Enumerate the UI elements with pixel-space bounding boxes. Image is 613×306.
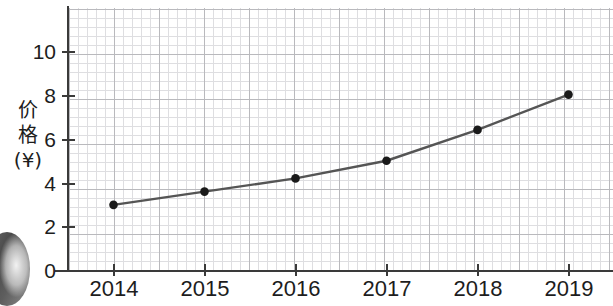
y-axis-label-4: 4 (28, 173, 56, 194)
x-axis-label-2015: 2015 (181, 277, 230, 301)
y-axis-label-0: 0 (28, 260, 56, 281)
scan-shadow-artifact (0, 232, 30, 306)
y-axis-tick-0 (62, 270, 75, 272)
x-axis-line (55, 270, 613, 272)
y-axis-tick-10 (62, 51, 75, 53)
y-axis-label-10: 10 (28, 41, 56, 62)
x-axis-tick-2016 (295, 264, 297, 276)
x-axis-label-2019: 2019 (545, 277, 594, 301)
chart-screenshot: 10 8 6 4 2 0 2014 2015 2016 2017 2018 20… (0, 0, 613, 306)
y-axis-tick-8 (62, 95, 75, 97)
y-axis-title-line-1: 价 (8, 98, 48, 123)
x-axis-tick-2019 (568, 264, 570, 276)
y-axis-label-2: 2 (28, 216, 56, 237)
x-axis-tick-2017 (386, 264, 388, 276)
y-axis-title: 价 格 (¥) (8, 98, 48, 173)
y-axis-title-line-3: (¥) (8, 148, 48, 173)
x-axis-tick-2014 (113, 264, 115, 276)
x-axis-label-2014: 2014 (90, 277, 139, 301)
y-axis-tick-4 (62, 183, 75, 185)
x-axis-label-2018: 2018 (454, 277, 503, 301)
y-axis-title-line-2: 格 (8, 123, 48, 148)
plot-area (69, 8, 613, 270)
x-axis-tick-2018 (477, 264, 479, 276)
x-axis-label-2017: 2017 (363, 277, 412, 301)
x-axis-label-2016: 2016 (272, 277, 321, 301)
y-axis-tick-2 (62, 226, 75, 228)
x-axis-tick-2015 (204, 264, 206, 276)
y-axis-tick-6 (62, 139, 75, 141)
